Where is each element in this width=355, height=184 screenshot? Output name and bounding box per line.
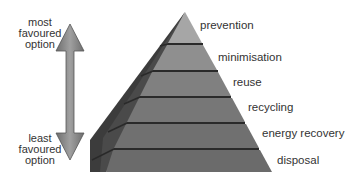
layer-recycling <box>127 98 245 122</box>
label-reuse: reuse <box>233 76 262 88</box>
label-recycling: recycling <box>248 101 293 113</box>
label-disposal: disposal <box>277 154 319 166</box>
label-minimisation: minimisation <box>218 51 282 63</box>
label-energy-recovery: energy recovery <box>262 127 344 139</box>
double-arrow-icon <box>56 24 84 160</box>
layer-prevention <box>168 12 202 43</box>
layer-disposal <box>106 150 272 172</box>
layer-energy-recovery <box>114 124 259 148</box>
layer-reuse <box>140 72 231 96</box>
label-prevention: prevention <box>200 19 254 31</box>
pyramid-front-face <box>92 12 272 172</box>
waste-hierarchy-diagram: most favoured option least favoured opti… <box>0 0 355 184</box>
